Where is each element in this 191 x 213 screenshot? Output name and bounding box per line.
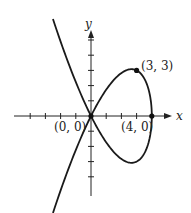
point-label-origin: (0, 0) (54, 121, 86, 133)
y-axis-label: y (85, 18, 92, 30)
marked-points (88, 68, 154, 119)
point-label-4-0: (4, 0) (121, 121, 153, 133)
point-label-3-3: (3, 3) (141, 60, 173, 72)
x-axis-label: x (176, 110, 183, 122)
x-axis-arrow-icon (164, 113, 172, 119)
y-axis-arrow-icon (88, 30, 94, 38)
plot-canvas (0, 0, 191, 213)
